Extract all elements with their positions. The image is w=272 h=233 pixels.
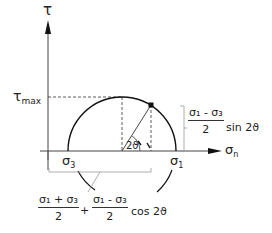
radius-numerator: σ₁ - σ₃ [92, 193, 128, 208]
sigma-axis-arrowhead-icon [208, 148, 222, 154]
mohr-circle-lower-left-arc [78, 171, 95, 190]
angle-label: 2ϑ [126, 140, 139, 151]
mean-stress-denominator: 2 [55, 208, 62, 223]
sigma3-label: σ3 [62, 154, 75, 170]
angle-tick-2 [147, 143, 150, 148]
sin-fraction-denominator: 2 [202, 121, 209, 136]
vertical-dimension-bracket [180, 106, 187, 151]
sin-fraction-numerator: σ₁ - σ₃ [188, 106, 224, 121]
cos-suffix: cos 2ϑ [131, 205, 167, 218]
mean-stress-fraction: σ₁ + σ₃ 2 [38, 193, 79, 223]
tau-axis-arrowhead-icon [45, 20, 51, 34]
tau-axis-label: τ [43, 3, 52, 18]
sin-suffix: sin 2ϑ [226, 121, 259, 134]
sin-fraction: σ₁ - σ₃ 2 [188, 106, 224, 136]
stress-point-marker [149, 103, 154, 108]
mean-stress-numerator: σ₁ + σ₃ [38, 193, 79, 208]
tau-max-label: τmax [13, 89, 41, 106]
plus-operator: + [80, 204, 89, 217]
sigma-n-axis-label: σn [225, 143, 238, 159]
sigma1-label: σ1 [170, 154, 183, 170]
radius-fraction: σ₁ - σ₃ 2 [92, 193, 128, 223]
mohr-circle-lower-right-arc [157, 170, 172, 192]
horizontal-dimension-bracket [49, 168, 151, 192]
radius-denominator: 2 [106, 208, 113, 223]
